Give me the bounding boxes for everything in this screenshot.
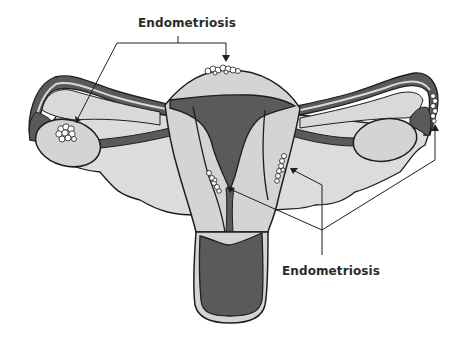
endometriosis-label-bottom: Endometriosis	[282, 264, 380, 278]
implant-left-ovary	[56, 124, 77, 142]
endometriosis-diagram: Endometriosis Endometriosis	[0, 0, 463, 347]
vaginal-canal	[199, 233, 262, 316]
uterus-illustration	[0, 0, 463, 347]
cervical-canal	[226, 188, 234, 232]
endometriosis-label-top: Endometriosis	[138, 16, 236, 30]
